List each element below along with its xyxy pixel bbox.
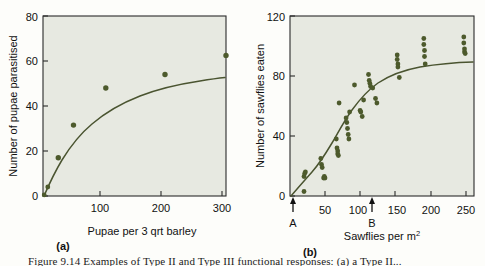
data-point <box>303 170 308 175</box>
x-tick-label-b-50: 50 <box>319 204 331 216</box>
data-point <box>45 185 50 190</box>
data-point <box>461 35 466 40</box>
y-tick-label-b-40: 40 <box>273 130 285 142</box>
data-point <box>366 72 371 77</box>
figure-caption-text: Figure 9.14 Examples of Type II and Type… <box>28 257 402 266</box>
y-axis-title-b: Number of sawflies eaten <box>254 44 266 168</box>
data-point <box>395 57 400 62</box>
data-point <box>337 101 342 106</box>
data-point <box>395 53 400 58</box>
y-tick-label-a-60: 60 <box>26 55 38 67</box>
panel-label-a: (a) <box>56 240 70 252</box>
data-point <box>396 65 401 70</box>
figure-container: 0 20 40 60 80 100 200 300 Number of <box>0 0 485 266</box>
data-point <box>320 165 325 170</box>
x-axis-title-a: Pupae per 3 qrt barley <box>88 225 197 237</box>
panel-a-svg: 0 20 40 60 80 100 200 300 Number of <box>0 0 243 266</box>
data-point <box>103 85 108 90</box>
data-point <box>223 53 228 58</box>
data-point <box>318 156 323 161</box>
panel-a: 0 20 40 60 80 100 200 300 Number of <box>0 0 243 266</box>
x-tick-label-b-200: 200 <box>422 204 440 216</box>
data-point <box>347 110 352 115</box>
plot-area-background-a <box>43 16 226 196</box>
y-tick-label-b-120: 120 <box>267 11 285 23</box>
data-point <box>302 189 307 194</box>
y-axis-title-a: Number of pupae parasitised <box>7 35 19 176</box>
plot-area-background-b <box>290 16 474 196</box>
data-point <box>397 75 402 80</box>
data-point <box>347 137 352 142</box>
data-point <box>358 110 363 115</box>
data-point <box>421 42 426 47</box>
x-tick-label-b-150: 150 <box>388 204 406 216</box>
x-axis-title-b-main: Sawflies per m <box>344 230 416 242</box>
x-tick-label-a-100: 100 <box>91 202 109 214</box>
data-point <box>42 193 47 198</box>
y-tick-label-a-40: 40 <box>26 100 38 112</box>
panel-b: 0 40 80 120 50 100 150 200 250 <box>242 0 485 266</box>
data-point <box>334 137 339 142</box>
x-tick-label-a-300: 300 <box>213 202 231 214</box>
data-point <box>422 48 427 53</box>
data-point <box>56 155 61 160</box>
y-tick-label-b-80: 80 <box>273 70 285 82</box>
data-point <box>344 120 349 125</box>
data-point <box>463 51 468 56</box>
data-point <box>373 96 378 101</box>
y-tick-label-a-0: 0 <box>32 190 38 202</box>
data-point <box>422 54 427 59</box>
data-point <box>344 116 349 121</box>
x-tick-label-b-100: 100 <box>349 204 367 216</box>
arrow-marker-b <box>369 197 375 212</box>
data-point <box>370 86 375 91</box>
data-point <box>345 126 350 131</box>
data-point <box>461 41 466 46</box>
arrow-label-a: A <box>289 217 297 229</box>
data-point <box>360 114 365 119</box>
data-point <box>421 36 426 41</box>
y-tick-label-a-20: 20 <box>26 145 38 157</box>
data-point <box>323 176 328 181</box>
arrow-marker-a <box>290 197 296 212</box>
data-point <box>336 153 341 158</box>
data-point <box>375 101 380 106</box>
panel-b-svg: 0 40 80 120 50 100 150 200 250 <box>242 0 485 266</box>
data-point <box>162 72 167 77</box>
x-axis-title-b-superscript: 2 <box>416 229 420 238</box>
y-tick-label-a-80: 80 <box>26 11 38 23</box>
data-point <box>423 62 428 67</box>
figure-caption-strip: Figure 9.14 Examples of Type II and Type… <box>0 257 485 266</box>
data-point <box>346 132 351 137</box>
data-point <box>361 98 366 103</box>
x-tick-label-b-250: 250 <box>457 204 475 216</box>
data-point <box>352 83 357 88</box>
x-tick-label-a-200: 200 <box>152 202 170 214</box>
data-point <box>71 122 76 127</box>
arrow-label-b: B <box>368 217 375 229</box>
y-tick-label-b-0: 0 <box>279 190 285 202</box>
x-axis-title-b: Sawflies per m2 <box>344 229 420 242</box>
